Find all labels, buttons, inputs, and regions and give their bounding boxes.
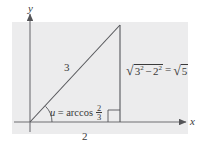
radical-sign-icon: √ — [126, 64, 134, 77]
radicand-second-exponent: 2 — [158, 64, 162, 72]
angle-fraction-denominator: 3 — [96, 112, 102, 122]
result-radicand: 5 — [181, 64, 189, 77]
x-axis-label: x — [190, 116, 195, 127]
y-axis-label: y — [28, 3, 33, 14]
trig-triangle-figure: y x 3 2 u = arccos 2 3 √ 32−22 = √ 5 — [0, 0, 204, 150]
angle-fraction: 2 3 — [96, 104, 102, 123]
radicand-expression: 32−22 — [134, 64, 163, 77]
result-radical: √ 5 — [173, 63, 188, 76]
result-radical-sign-icon: √ — [173, 64, 181, 77]
angle-fraction-numerator: 2 — [96, 104, 102, 113]
height-equals-sign: = — [163, 64, 173, 75]
outer-radical: √ 32−22 — [126, 63, 163, 76]
angle-equals-sign: = — [58, 108, 64, 119]
angle-equation-label: u = arccos 2 3 — [50, 104, 102, 123]
angle-variable: u — [50, 108, 55, 119]
right-angle-marker — [108, 110, 120, 122]
hypotenuse-length-label: 3 — [64, 62, 70, 73]
arccos-function-name: arccos — [66, 108, 93, 119]
height-expression-label: √ 32−22 = √ 5 — [126, 63, 188, 76]
radicand-operator: − — [144, 65, 153, 77]
base-length-label: 2 — [82, 131, 88, 142]
